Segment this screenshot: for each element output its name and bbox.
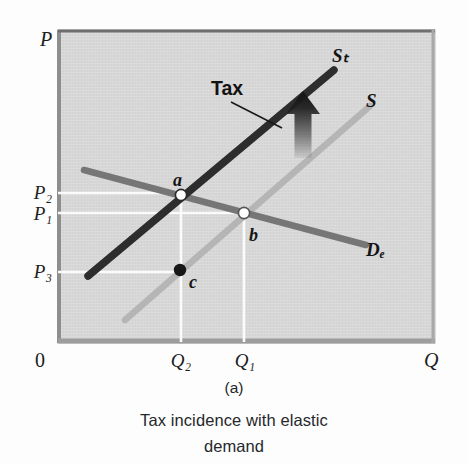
curve-label-de: Dₑ [365,239,385,260]
x-tick-q1-text: Q₁ [235,350,255,371]
point-label-c: c [189,272,197,292]
x-tick-label-q2: Q₂ [171,350,192,371]
point-c-marker [174,264,186,276]
panel-label: (a) [0,379,468,397]
x-axis-label: Q [424,349,439,371]
tax-annotation-label: Tax [211,77,243,99]
y-tick-p2-text: P₂ [33,182,53,203]
origin-label: 0 [35,349,45,371]
y-axis-label: P [39,28,52,50]
point-label-b: b [249,225,258,245]
plot-area [58,30,435,343]
point-label-c-text: c [189,272,197,292]
y-tick-label-p1: P₁ [33,203,52,224]
curve-label-st: Sₜ [332,45,350,66]
point-label-a: a [173,170,182,190]
y-tick-p3-text: P₃ [33,261,52,282]
point-a-marker [175,189,186,200]
tax-annotation-text: Tax [211,77,243,99]
curve-label-s-text: S [366,90,377,111]
curve-label-de-text: Dₑ [365,239,385,260]
plot-background [58,30,435,343]
y-tick-label-p3: P₃ [33,261,52,282]
figure-caption-line-1: Tax incidence with elastic [0,411,468,430]
y-tick-p1-text: P₁ [33,203,52,224]
figure-container: P Q 0 P₂ P₁ P₃ Q₂ Q₁ [0,0,468,464]
figure-caption-line-2: demand [0,437,468,456]
y-tick-label-p2: P₂ [33,182,53,203]
curve-label-s: S [366,90,377,111]
point-label-b-text: b [249,225,258,245]
point-b-marker [238,207,249,218]
curve-label-st-text: Sₜ [332,45,350,66]
x-tick-label-q1: Q₁ [235,350,255,371]
point-label-a-text: a [173,170,182,190]
x-tick-q2-text: Q₂ [171,350,192,371]
